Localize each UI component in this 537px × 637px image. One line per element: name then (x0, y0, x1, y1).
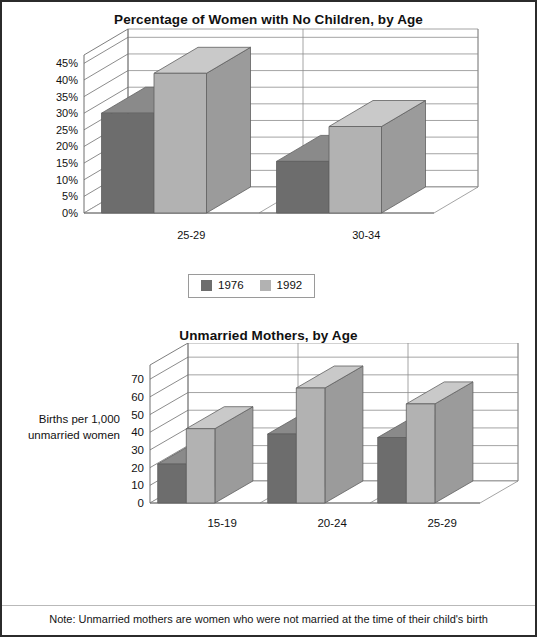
x-axis-category-label: 20-24 (317, 517, 347, 529)
axis-depth-connector (150, 357, 188, 379)
bar-20-24-1970-front (268, 434, 297, 503)
bar-25-29-1992-side (207, 47, 251, 213)
bar-15-19-1970-front (158, 464, 187, 503)
y-axis-tick-label: 10% (56, 174, 78, 186)
y-axis-tick-label: 30% (56, 107, 78, 119)
bar-20-24-1990-front (296, 388, 325, 503)
figure-note: Note: Unmarried mothers are women who we… (2, 605, 535, 625)
chart-plot-bottom: 01020304050607015-1920-2425-29Births per… (2, 343, 535, 561)
y-axis-tick-label: 70 (131, 373, 144, 385)
axis-depth-connector (150, 375, 188, 397)
bar-25-29-1970-front (378, 438, 407, 504)
y-axis-tick-label: 30 (131, 444, 144, 456)
figure-frame: Percentage of Women with No Children, by… (0, 0, 537, 637)
legend-swatch-1976 (201, 280, 212, 291)
legend-item-1976: 1976 (201, 280, 244, 292)
bar-30-34-1976-front (277, 161, 330, 213)
axis-depth-connector (84, 71, 128, 97)
y-axis-label-line1: Births per 1,000 (39, 413, 120, 425)
axis-depth-connector (150, 428, 188, 450)
axis-depth-connector (150, 410, 188, 432)
y-axis-tick-label: 25% (56, 124, 78, 136)
bar-15-19-1990-front (186, 429, 215, 503)
x-axis-category-label: 25-29 (177, 229, 205, 241)
chart-svg-top: 0%5%10%15%20%25%30%35%40%45%25-2930-34 (2, 27, 537, 257)
legend-item-1992: 1992 (260, 280, 303, 292)
y-axis-tick-label: 0% (62, 207, 78, 219)
x-axis-category-label: 15-19 (207, 517, 236, 529)
y-axis-tick-label: 40 (131, 426, 144, 438)
x-axis-category-label: 25-29 (427, 517, 456, 529)
bar-25-29-1992-front (154, 73, 207, 213)
chart-title-bottom: Unmarried Mothers, by Age (2, 320, 535, 343)
y-axis-label-line2: unmarried women (28, 429, 120, 441)
y-axis-tick-label: 5% (62, 190, 78, 202)
x-axis-category-label: 30-34 (352, 229, 380, 241)
y-axis-tick-label: 20 (131, 462, 144, 474)
bar-30-34-1992-front (329, 127, 382, 214)
legend-top: 1976 1992 (188, 274, 315, 298)
chart-panel-unmarried-mothers-by-age: Unmarried Mothers, by Age 01020304050607… (2, 320, 535, 605)
y-axis-tick-label: 20% (56, 140, 78, 152)
y-axis-tick-label: 0 (138, 497, 144, 509)
y-axis-tick-label: 60 (131, 391, 144, 403)
chart-plot-top: 0%5%10%15%20%25%30%35%40%45%25-2930-34 (2, 27, 535, 257)
chart-title-top: Percentage of Women with No Children, by… (2, 2, 535, 27)
chart-panel-percentage-women-no-children: Percentage of Women with No Children, by… (2, 2, 535, 320)
legend-label-1992: 1992 (277, 280, 303, 292)
bar-25-29-1976-front (102, 113, 155, 213)
y-axis-tick-label: 50 (131, 409, 144, 421)
y-axis-tick-label: 35% (56, 91, 78, 103)
axis-depth-connector (150, 393, 188, 415)
y-axis-tick-label: 10 (131, 479, 144, 491)
legend-label-1976: 1976 (218, 280, 244, 292)
bar-20-24-1990-side (325, 366, 363, 503)
y-axis-tick-label: 45% (56, 57, 78, 69)
legend-swatch-1992 (260, 280, 271, 291)
chart-svg-bottom: 01020304050607015-1920-2425-29Births per… (2, 343, 537, 561)
y-axis-top-connector (150, 343, 188, 365)
axis-depth-connector (84, 54, 128, 80)
y-axis-top-connector (84, 29, 128, 55)
y-axis-tick-label: 40% (56, 74, 78, 86)
bar-25-29-1990-front (406, 404, 435, 503)
y-axis-tick-label: 15% (56, 157, 78, 169)
axis-depth-connector (84, 37, 128, 63)
